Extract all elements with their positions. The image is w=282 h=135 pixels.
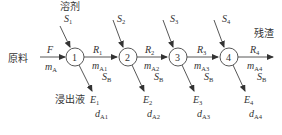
svg-text:dA2: dA2 bbox=[147, 108, 160, 120]
svg-text:S4: S4 bbox=[222, 13, 231, 25]
solvent-arrow-4 bbox=[214, 20, 224, 47]
svg-text:R4: R4 bbox=[249, 44, 260, 56]
feed-label: 原料 bbox=[8, 52, 28, 64]
svg-text:SB: SB bbox=[204, 71, 214, 83]
svg-text:S1: S1 bbox=[64, 13, 72, 25]
svg-text:dA4: dA4 bbox=[249, 108, 263, 120]
svg-text:2: 2 bbox=[125, 52, 130, 63]
feed-symbol: F bbox=[46, 44, 54, 55]
svg-text:3: 3 bbox=[175, 52, 180, 63]
svg-text:4: 4 bbox=[226, 52, 231, 63]
svg-text:E3: E3 bbox=[192, 94, 202, 106]
stage-2: S2 2 R2 mA2 SB E2 dA2 bbox=[113, 13, 167, 120]
svg-text:E2: E2 bbox=[142, 94, 152, 106]
svg-text:E1: E1 bbox=[89, 94, 99, 106]
solvent-arrow-3 bbox=[163, 20, 173, 47]
extract-arrow-4 bbox=[233, 65, 245, 91]
svg-text:R3: R3 bbox=[196, 44, 206, 56]
svg-text:1: 1 bbox=[72, 52, 77, 63]
solvent-label: 溶剂 bbox=[60, 0, 80, 12]
extract-arrow-2 bbox=[132, 65, 144, 91]
svg-text:E4: E4 bbox=[243, 94, 254, 106]
extract-arrow-1 bbox=[79, 65, 92, 91]
stage-4: S4 4 残渣 R4 mA4 SB E4 dA4 bbox=[214, 13, 274, 120]
svg-text:SB: SB bbox=[102, 71, 112, 83]
feed-mass: mA bbox=[45, 61, 57, 73]
svg-text:R2: R2 bbox=[144, 44, 154, 56]
svg-text:SB: SB bbox=[257, 71, 267, 83]
svg-text:dA1: dA1 bbox=[95, 108, 108, 120]
stage-1: S1 1 R1 mA1 SB 浸出液 E1 dA1 bbox=[55, 13, 117, 120]
svg-text:dA3: dA3 bbox=[197, 108, 210, 120]
leachate-label: 浸出液 bbox=[55, 93, 85, 105]
extract-arrow-3 bbox=[182, 65, 194, 91]
solvent-arrow-1 bbox=[60, 26, 70, 47]
leaching-diagram: 原料 F mA 溶剂 S1 1 R1 mA1 SB 浸出液 E1 dA1 S2 … bbox=[0, 0, 282, 135]
residue-label: 残渣 bbox=[254, 27, 274, 39]
stage-3: S3 3 R3 mA3 SB E3 dA3 bbox=[163, 13, 218, 120]
svg-text:S2: S2 bbox=[117, 13, 125, 25]
svg-text:R1: R1 bbox=[92, 44, 102, 56]
svg-text:S3: S3 bbox=[170, 13, 178, 25]
svg-text:SB: SB bbox=[154, 71, 164, 83]
